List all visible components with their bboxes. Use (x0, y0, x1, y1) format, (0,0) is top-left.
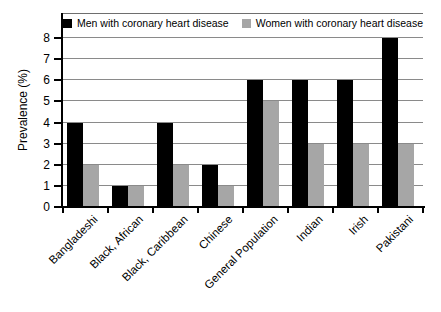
y-tick-8 (54, 37, 61, 39)
y-tick-label-1: 1 (26, 179, 50, 193)
legend-item-women: Women with coronary heart disease (242, 17, 423, 29)
gridline-7 (63, 58, 423, 59)
x-axis-label-4: Chinese (197, 213, 235, 251)
legend: Men with coronary heart disease Women wi… (63, 17, 423, 29)
y-tick-label-5: 5 (26, 94, 50, 108)
gridline-6 (63, 79, 423, 80)
gridline-8 (63, 37, 423, 38)
bar-men-3 (157, 123, 173, 208)
bar-men-8 (382, 38, 398, 207)
bar-women-1 (83, 165, 99, 207)
x-axis-label-7: Irish (346, 213, 370, 237)
bar-men-2 (112, 186, 128, 207)
y-tick-7 (54, 58, 61, 60)
x-axis-line (61, 206, 425, 208)
y-tick-5 (54, 100, 61, 102)
bar-men-1 (67, 123, 83, 208)
x-axis-label-8: Pakistani (373, 213, 414, 254)
legend-item-men: Men with coronary heart disease (63, 17, 229, 29)
bar-women-6 (308, 144, 324, 207)
bar-women-2 (128, 186, 144, 207)
y-tick-label-4: 4 (26, 116, 50, 130)
y-tick-3 (54, 143, 61, 145)
bar-men-7 (337, 80, 353, 207)
legend-label-men: Men with coronary heart disease (77, 17, 229, 29)
y-tick-label-2: 2 (26, 158, 50, 172)
gridline-5 (63, 100, 423, 101)
y-axis-line (61, 13, 63, 208)
y-tick-0 (54, 206, 61, 208)
women-series-swatch-icon (242, 19, 251, 28)
y-tick-label-7: 7 (26, 52, 50, 66)
y-tick-2 (54, 164, 61, 166)
y-tick-4 (54, 122, 61, 124)
y-tick-label-6: 6 (26, 73, 50, 87)
bar-women-5 (263, 101, 279, 207)
bar-women-4 (218, 186, 234, 207)
y-tick-label-8: 8 (26, 31, 50, 45)
x-axis-label-6: Indian (294, 213, 325, 244)
legend-label-women: Women with coronary heart disease (256, 17, 423, 29)
gridline-4 (63, 122, 423, 123)
y-tick-1 (54, 185, 61, 187)
bar-women-7 (353, 144, 369, 207)
gridline-2 (63, 164, 423, 165)
y-tick-label-0: 0 (26, 200, 50, 214)
bar-women-8 (398, 144, 414, 207)
y-tick-label-3: 3 (26, 137, 50, 151)
plot-top-border (63, 13, 423, 14)
y-tick-6 (54, 79, 61, 81)
men-series-swatch-icon (63, 19, 72, 28)
bar-men-6 (292, 80, 308, 207)
bar-women-3 (173, 165, 189, 207)
bar-men-5 (247, 80, 263, 207)
bar-chart-figure: Prevalence (%) Men with coronary heart d… (0, 0, 441, 312)
bar-men-4 (202, 165, 218, 207)
gridline-3 (63, 143, 423, 144)
plot-area: Men with coronary heart disease Women wi… (63, 13, 423, 207)
